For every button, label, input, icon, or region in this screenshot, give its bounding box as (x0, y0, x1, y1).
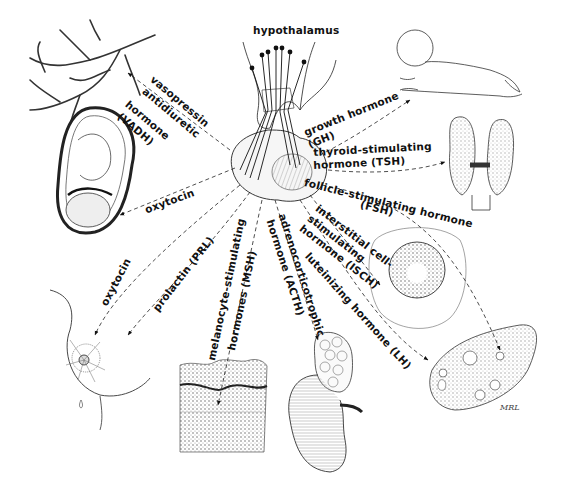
label-hypothalamus: hypothalamus (253, 24, 339, 36)
artist-signature: MRL (499, 403, 520, 412)
infant-illustration (397, 30, 522, 97)
skin-illustration (180, 359, 267, 452)
thyroid-illustration (450, 117, 514, 210)
testis-illustration (369, 228, 466, 329)
ovary-illustration (430, 325, 537, 410)
endocrine-diagram: MRL hypothalamus vasopressin antidiureti… (0, 0, 561, 490)
adrenal-kidney-illustration (289, 332, 362, 472)
breast-illustration (50, 290, 150, 430)
